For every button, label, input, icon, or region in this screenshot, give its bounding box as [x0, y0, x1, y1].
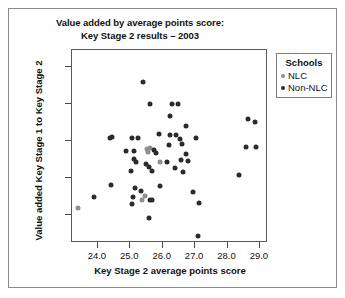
data-point: [128, 169, 133, 174]
data-point: [180, 141, 185, 146]
data-point: [108, 182, 113, 187]
data-point: [138, 189, 143, 194]
data-point: [109, 135, 114, 140]
data-point: [153, 150, 158, 155]
data-point: [133, 186, 138, 191]
data-point: [139, 198, 144, 203]
legend-title: Schools: [281, 57, 327, 68]
data-point: [254, 144, 259, 149]
chart-title-line-1: Value added by average points score:: [9, 17, 271, 30]
x-tick-mark: [259, 242, 260, 248]
data-point: [244, 144, 249, 149]
data-point: [146, 150, 151, 155]
data-point: [76, 206, 81, 211]
data-point: [173, 165, 178, 170]
chart-title: Value added by average points score: Key…: [9, 17, 271, 42]
data-point: [132, 149, 137, 154]
data-point: [147, 216, 152, 221]
y-axis-title: Value added Key Stage 1 to Key Stage 2: [33, 56, 44, 246]
data-point: [167, 113, 172, 118]
data-point: [180, 170, 185, 175]
legend-item-nlc[interactable]: NLC: [281, 70, 327, 81]
data-point: [134, 160, 139, 165]
data-point: [129, 135, 134, 140]
x-tick-mark: [97, 242, 98, 248]
x-tick-mark: [227, 242, 228, 248]
data-point: [140, 80, 145, 85]
legend-item-non-nlc[interactable]: Non-NLC: [281, 82, 327, 93]
data-point: [150, 197, 155, 202]
data-point: [184, 124, 189, 129]
x-tick-label: 29.0: [239, 250, 279, 261]
legend-marker-nlc-icon: [281, 74, 285, 78]
data-point: [253, 120, 258, 125]
plot-frame: [71, 49, 267, 242]
scatter-plot-area: [72, 50, 266, 241]
data-point: [158, 184, 163, 189]
legend-marker-non-nlc-icon: [281, 86, 285, 90]
data-point: [193, 135, 198, 140]
data-point: [130, 195, 135, 200]
data-point: [185, 159, 190, 164]
x-axis-title: Key Stage 2 average points score: [49, 265, 291, 276]
chart-figure: Value added by average points score: Key…: [8, 8, 337, 288]
data-point: [158, 160, 163, 165]
x-tick-mark: [194, 242, 195, 248]
data-point: [129, 202, 134, 207]
data-point: [197, 201, 202, 206]
data-point: [167, 133, 172, 138]
data-point: [170, 101, 175, 106]
x-tick-mark: [162, 242, 163, 248]
data-point: [124, 149, 129, 154]
data-point: [176, 101, 181, 106]
legend: Schools NLC Non-NLC: [276, 53, 332, 98]
x-tick-mark: [129, 242, 130, 248]
data-point: [184, 151, 189, 156]
legend-label-nlc: NLC: [288, 70, 307, 81]
data-point: [236, 173, 241, 178]
chart-title-line-2: Key Stage 2 results – 2003: [9, 30, 271, 43]
data-point: [92, 195, 97, 200]
data-point: [150, 169, 155, 174]
data-point: [190, 190, 195, 195]
data-point: [166, 143, 171, 148]
data-point: [136, 135, 141, 140]
data-point: [178, 158, 183, 163]
legend-label-non-nlc: Non-NLC: [288, 82, 328, 93]
data-point: [148, 101, 153, 106]
data-point: [164, 160, 169, 165]
data-point: [245, 117, 250, 122]
data-point: [156, 132, 161, 137]
data-point: [195, 233, 200, 238]
